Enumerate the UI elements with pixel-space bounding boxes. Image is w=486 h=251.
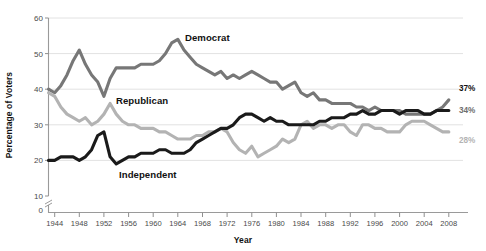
x-tick-1996: 1996	[366, 219, 383, 228]
x-tick-1952: 1952	[95, 219, 112, 228]
x-tick-2004: 2004	[416, 219, 433, 228]
x-tick-1964: 1964	[169, 219, 186, 228]
x-tick-labels: 1944194819521956196019641968197219761980…	[46, 213, 457, 229]
end-label-37: 37%	[459, 84, 476, 93]
x-tick-1948: 1948	[71, 219, 88, 228]
y-tick-labels: 0102030405060	[34, 14, 48, 215]
end-value-labels: 37% 34% 28%	[459, 84, 476, 145]
y-tick-10: 10	[34, 192, 43, 201]
x-tick-1956: 1956	[120, 219, 137, 228]
y-tick-60: 60	[34, 14, 43, 23]
y-tick-30: 30	[34, 121, 43, 130]
chart-container: 0102030405060 19441948195219561960196419…	[0, 0, 486, 251]
independent-label: Independent	[119, 169, 177, 180]
line-chart: 0102030405060 19441948195219561960196419…	[0, 0, 486, 251]
x-tick-2000: 2000	[391, 219, 408, 228]
y-tick-40: 40	[34, 85, 43, 94]
end-label-28: 28%	[459, 136, 476, 145]
y-tick-20: 20	[34, 156, 43, 165]
series-group	[49, 39, 449, 164]
series-line-independent	[49, 111, 449, 164]
x-tick-1988: 1988	[317, 219, 334, 228]
y-tick-50: 50	[34, 50, 43, 59]
democrat-label: Democrat	[185, 32, 230, 43]
y-axis-title: Percentage of Voters	[4, 72, 14, 159]
x-axis-title: Year	[234, 235, 253, 245]
republican-label: Republican	[116, 95, 168, 106]
end-label-34: 34%	[459, 106, 476, 115]
x-tick-1976: 1976	[243, 219, 260, 228]
y-axis: 0102030405060	[34, 14, 52, 215]
y-tick-0: 0	[39, 206, 44, 215]
x-axis: 1944194819521956196019641968197219761980…	[46, 213, 468, 229]
x-tick-1968: 1968	[194, 219, 211, 228]
x-tick-2008: 2008	[440, 219, 457, 228]
x-tick-1992: 1992	[342, 219, 359, 228]
gridlines	[49, 18, 464, 160]
x-tick-1960: 1960	[145, 219, 162, 228]
x-tick-1944: 1944	[46, 219, 63, 228]
x-tick-1972: 1972	[219, 219, 236, 228]
x-tick-1980: 1980	[268, 219, 285, 228]
series-line-democrat	[49, 39, 449, 114]
x-tick-1984: 1984	[293, 219, 310, 228]
